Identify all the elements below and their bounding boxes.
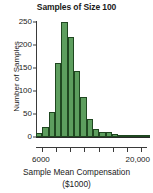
plot-area: 050100150200250 <box>36 22 150 137</box>
histogram-figure: Samples of Size 100 Number of Samples 05… <box>0 0 153 193</box>
y-axis-tick-mark <box>33 91 36 92</box>
x-axis-tick-mark <box>113 147 114 152</box>
y-axis-tick-label: 0 <box>28 133 32 141</box>
x-axis-tick-mark <box>127 147 128 152</box>
x-axis-tick-label-min: 6000 <box>32 155 50 164</box>
x-axis-tick-mark <box>84 147 85 152</box>
y-axis-label: Number of Samples <box>12 22 21 132</box>
chart-title: Samples of Size 100 <box>0 2 153 12</box>
x-axis-tick-mark <box>141 147 142 152</box>
y-axis-tick-mark <box>33 114 36 115</box>
x-axis-tick-mark <box>99 147 100 152</box>
x-axis-tick-mark <box>56 147 57 152</box>
x-axis-tick-label-max: 20,000 <box>126 155 150 164</box>
y-axis-tick-mark <box>33 45 36 46</box>
y-axis-tick-mark <box>33 22 36 23</box>
x-axis-line <box>36 147 147 148</box>
plot-baseline <box>36 137 150 138</box>
y-axis-tick-mark <box>33 68 36 69</box>
x-axis-label: Sample Mean Compensation <box>0 167 153 178</box>
y-axis-tick-label: 50 <box>23 110 32 118</box>
x-axis-label-unit: ($1000) <box>0 179 153 190</box>
y-axis-tick-label: 150 <box>19 64 32 72</box>
x-axis-tick-mark <box>70 147 71 152</box>
x-axis <box>36 147 147 152</box>
y-axis-tick-label: 200 <box>19 41 32 49</box>
x-axis-tick-mark <box>42 147 43 152</box>
y-axis-tick-label: 250 <box>19 18 32 26</box>
y-axis-tick-label: 100 <box>19 87 32 95</box>
